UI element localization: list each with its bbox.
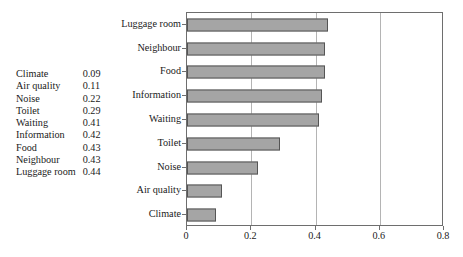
bar [187,42,325,55]
value-table-value: 0.44 [83,167,101,179]
figure-bar-chart-with-value-table: Climate0.09Air quality0.11Noise0.22Toile… [0,0,463,257]
category-label: Waiting [149,114,181,124]
category-label: Neighbour [137,43,181,53]
value-table-row: Information0.42 [16,130,101,142]
bar [187,114,319,127]
category-label: Air quality [137,185,181,195]
value-table-body: Climate0.09Air quality0.11Noise0.22Toile… [16,69,101,180]
category-label: Noise [157,161,181,171]
category-label: Luggage room [121,19,181,29]
category-label: Toilet [157,138,181,148]
category-label: Climate [149,209,181,219]
value-table-row: Air quality0.11 [16,81,101,93]
bar-chart: Luggage roomNeighbourFoodInformationWait… [112,12,443,226]
value-table-row: Luggage room0.44 [16,167,101,179]
gridline-vertical [380,13,381,225]
bar [187,209,216,222]
value-table-label: Air quality [16,81,83,93]
x-tick-label: 0 [183,231,188,241]
bar [187,66,325,79]
x-tick-label: 0.6 [372,231,385,241]
bar [187,161,258,174]
value-table-label: Luggage room [16,167,83,179]
bar [187,90,322,103]
plot-area [186,12,443,226]
x-axis: 00.20.40.60.8 [186,226,443,248]
category-label: Food [160,66,181,76]
x-tick-label: 0.2 [244,231,257,241]
category-label: Information [132,90,181,100]
value-table-value: 0.42 [83,130,101,142]
value-table-grid: Climate0.09Air quality0.11Noise0.22Toile… [16,69,101,180]
bar [187,18,328,31]
x-tick-label: 0.4 [308,231,321,241]
value-table-value: 0.11 [83,81,101,93]
bar [187,137,280,150]
x-tick-label: 0.8 [437,231,450,241]
bar [187,185,222,198]
value-table-label: Information [16,130,83,142]
category-axis: Luggage roomNeighbourFoodInformationWait… [112,12,186,226]
